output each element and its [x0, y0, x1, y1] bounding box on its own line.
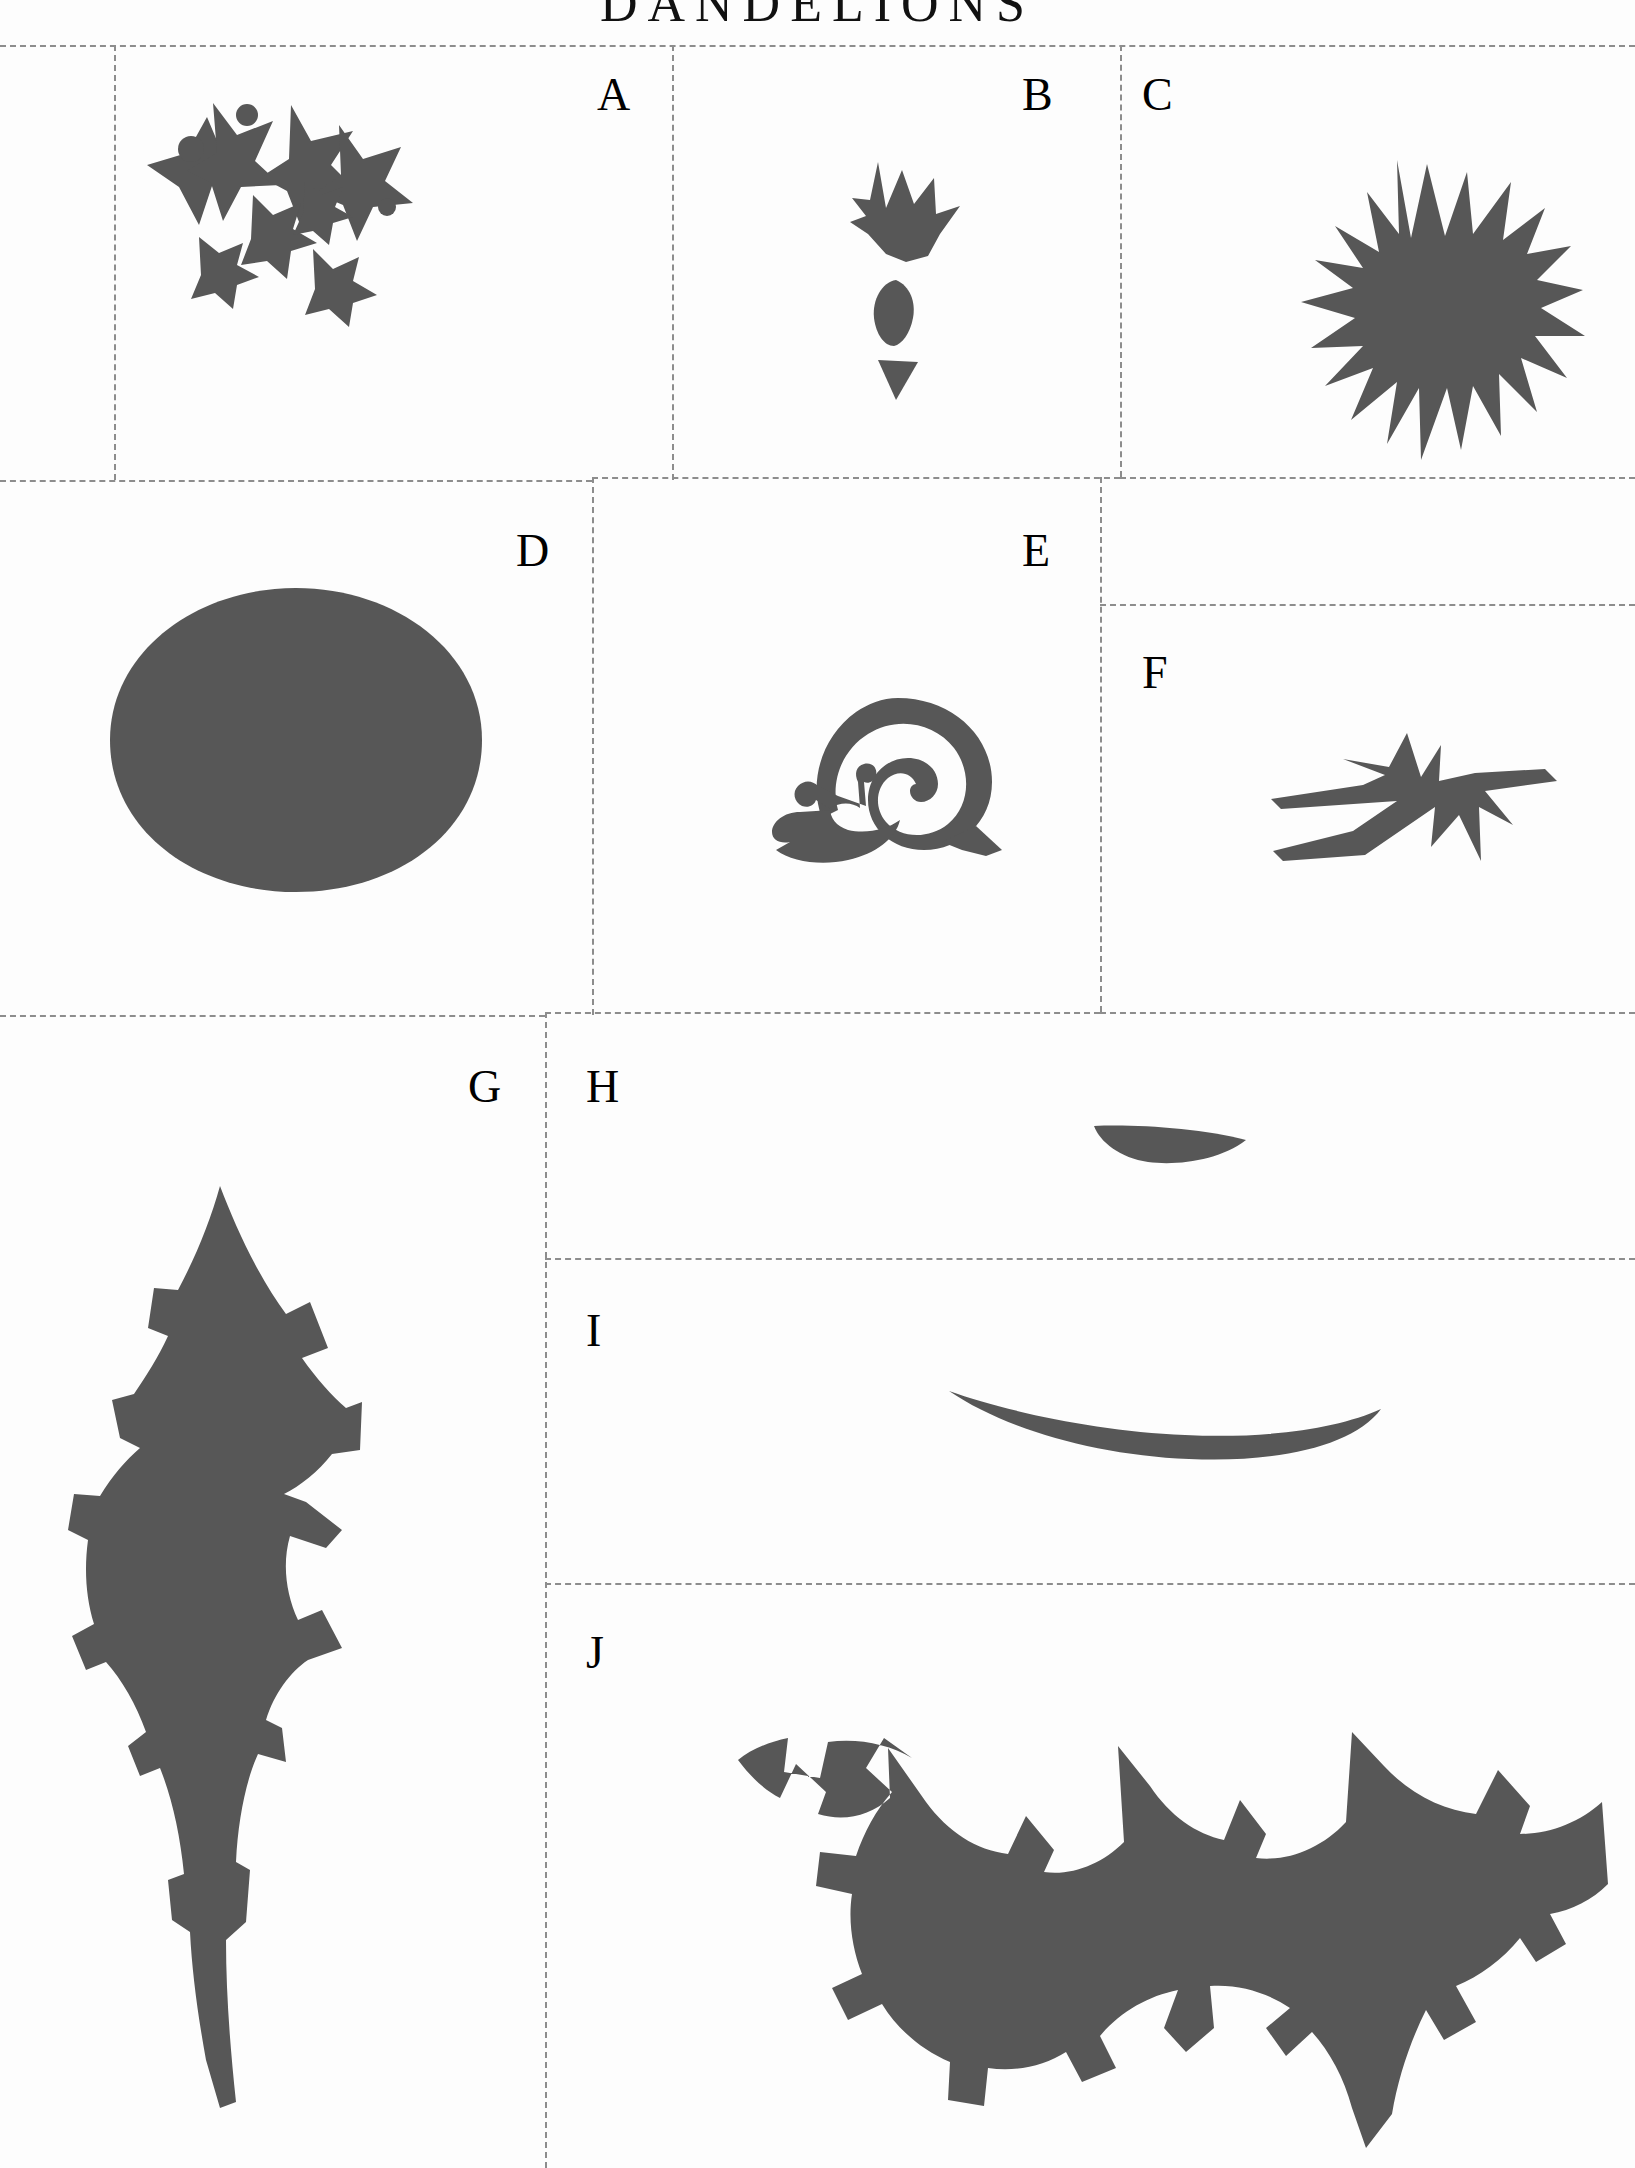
cell-label-c: C: [1142, 72, 1173, 118]
cell-label-e: E: [1022, 528, 1050, 574]
cell-label-g: G: [468, 1064, 501, 1110]
rule-b-c: [1120, 45, 1122, 477]
rule-top: [0, 45, 1635, 47]
template-sheet: DANDELIONS ABCDEFGHIJ: [0, 0, 1635, 2168]
rule-f-bottom: [1100, 1012, 1635, 1014]
art-panel-h: [1090, 1120, 1250, 1170]
art-panel-g: [60, 1180, 380, 2110]
cell-label-h: H: [586, 1064, 619, 1110]
rule-row1-row2-left: [0, 480, 592, 482]
art-panel-e: [680, 690, 1010, 870]
art-panel-j: [630, 1710, 1630, 2150]
rule-g-right: [545, 1012, 547, 2168]
art-panel-a: [95, 75, 495, 335]
rule-ef-divider: [1100, 604, 1635, 606]
rule-i-j: [545, 1583, 1635, 1585]
art-panel-b: [810, 150, 990, 380]
rule-h-i: [545, 1258, 1635, 1260]
cell-label-a: A: [597, 72, 630, 118]
rule-row2-row3-left: [0, 1015, 545, 1017]
art-panel-d: [96, 580, 496, 900]
rule-d-e: [592, 477, 594, 1015]
rule-row2-row3-right: [545, 1012, 1100, 1014]
rule-e-f: [1100, 477, 1102, 1012]
cell-label-d: D: [516, 528, 549, 574]
cell-label-j: J: [586, 1630, 604, 1676]
cell-label-b: B: [1022, 72, 1053, 118]
art-panel-c: [1215, 130, 1615, 490]
page-title: DANDELIONS: [0, 0, 1635, 33]
art-panel-i: [945, 1385, 1385, 1465]
rule-a-b: [672, 45, 674, 480]
cell-label-i: I: [586, 1308, 601, 1354]
cell-label-f: F: [1142, 650, 1168, 696]
art-panel-f: [1245, 715, 1565, 865]
